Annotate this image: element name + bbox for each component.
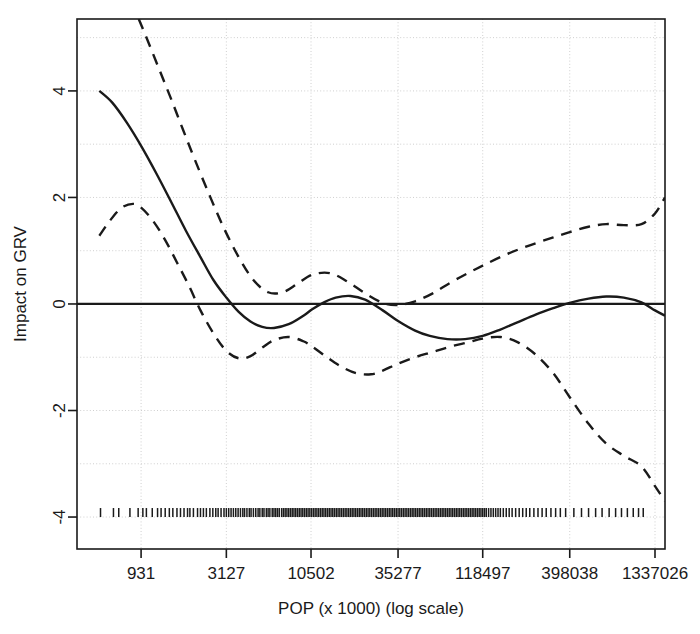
chart-figure: 931312710502352771184973980381337026420-… [0, 0, 700, 634]
x-tick-label: 35277 [374, 564, 421, 583]
plot-frame [77, 19, 665, 549]
x-tick-label: 398038 [541, 564, 598, 583]
x-axis-title: POP (x 1000) (log scale) [278, 599, 464, 618]
axis-ticks [68, 91, 655, 558]
upper-confidence-dashed-line [139, 19, 665, 305]
y-tick-label: 0 [50, 299, 69, 308]
confidence-band-lower [99, 204, 665, 501]
x-tick-label: 118497 [455, 564, 510, 583]
plot-border [77, 19, 665, 549]
tick-labels: 931312710502352771184973980381337026420-… [50, 86, 688, 583]
y-tick-label: -4 [50, 509, 69, 524]
x-tick-label: 10502 [287, 564, 334, 583]
x-tick-label: 3127 [207, 564, 245, 583]
grid-lines [77, 19, 665, 549]
y-tick-label: 4 [50, 86, 69, 95]
fitted-smooth-line [99, 91, 665, 340]
y-axis-title: Impact on GRV [11, 225, 30, 342]
lower-confidence-dashed-line [99, 204, 665, 501]
fitted-curve [99, 91, 665, 340]
x-tick-label: 1337026 [622, 564, 688, 583]
x-tick-label: 931 [127, 564, 155, 583]
axis-titles: POP (x 1000) (log scale)Impact on GRV [11, 225, 464, 618]
y-tick-label: -2 [50, 403, 69, 418]
y-tick-label: 2 [50, 193, 69, 202]
chart-canvas: 931312710502352771184973980381337026420-… [0, 0, 700, 634]
confidence-band-upper [139, 19, 665, 305]
rug-plot [101, 508, 644, 517]
